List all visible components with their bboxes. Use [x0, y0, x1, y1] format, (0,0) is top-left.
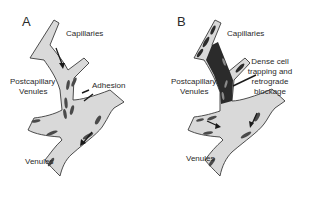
- label-capillaries: Capillaries: [227, 29, 264, 38]
- label-retrograde: retrograde: [252, 77, 289, 86]
- dense-cell-mass: [206, 42, 233, 104]
- label-capillaries: Capillaries: [66, 29, 103, 38]
- vaso-occlusion-diagram: A Capillaries Postc: [0, 0, 319, 214]
- panel-b-letter: B: [177, 14, 186, 29]
- panel-b-vessel-tree: [188, 20, 285, 176]
- label-postcapillary-venules: Venules: [19, 87, 47, 96]
- label-venules: Venules: [186, 154, 214, 163]
- adhesion-leader-line: [82, 90, 89, 93]
- label-postcapillary: Postcapillary: [171, 77, 216, 86]
- label-postcapillary: Postcapillary: [10, 77, 55, 86]
- label-trapping: trapping and: [248, 67, 292, 76]
- label-dense-cell: Dense cell: [251, 57, 289, 66]
- panel-a-letter: A: [22, 14, 31, 29]
- label-blockage: blockage: [254, 87, 287, 96]
- panel-b: B: [171, 14, 292, 176]
- panel-a: A Capillaries Postc: [10, 14, 125, 176]
- label-adhesion: Adhesion: [92, 81, 125, 90]
- label-venules: Venules: [25, 157, 53, 166]
- panel-a-vessel-tree: [28, 20, 124, 176]
- label-postcapillary-venules: Venules: [180, 87, 208, 96]
